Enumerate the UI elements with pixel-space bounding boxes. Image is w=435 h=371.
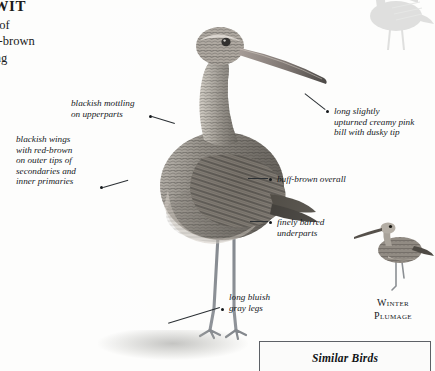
- page-title: DWIT: [0, 0, 26, 15]
- bird-bill: [239, 48, 327, 84]
- bird-legs: [210, 236, 236, 330]
- winter-plumage-line1: Winter: [356, 297, 430, 310]
- callout-underparts-leader: [250, 221, 268, 222]
- callout-upperparts: blackish mottling on upperparts: [71, 98, 135, 119]
- article-paragraph: s call of s buff-brown its long Very: [0, 17, 35, 83]
- callout-legs: long bluish gray legs: [229, 292, 270, 313]
- similar-birds-heading: Similar Birds: [259, 352, 431, 364]
- winter-plumage-caption: Winter Plumage: [356, 297, 430, 322]
- field-guide-page: Winter Plumage DWIT s call of s buff-bro…: [0, 0, 435, 371]
- godwit-silhouette-ghost-illustration: [352, 0, 435, 56]
- callout-wings: blackish wings with red-brown on outer t…: [16, 134, 76, 187]
- callout-overall-dot: [269, 178, 272, 181]
- ground-shadow: [98, 330, 248, 360]
- callout-underparts-dot: [269, 221, 272, 224]
- callout-legs-dot: [221, 308, 224, 311]
- callout-overall: buff-brown overall: [277, 174, 346, 185]
- bird-eye: [221, 38, 230, 46]
- winter-plumage-bird-illustration: [352, 216, 435, 296]
- winter-bird-legs: [392, 262, 404, 290]
- callout-bill: long slightly upturned creamy pink bill …: [334, 106, 414, 138]
- callout-overall-leader: [248, 178, 268, 179]
- callout-bill-dot: [326, 110, 329, 113]
- winter-plumage-line2: Plumage: [356, 310, 430, 323]
- callout-underparts: finely barred underparts: [277, 217, 324, 238]
